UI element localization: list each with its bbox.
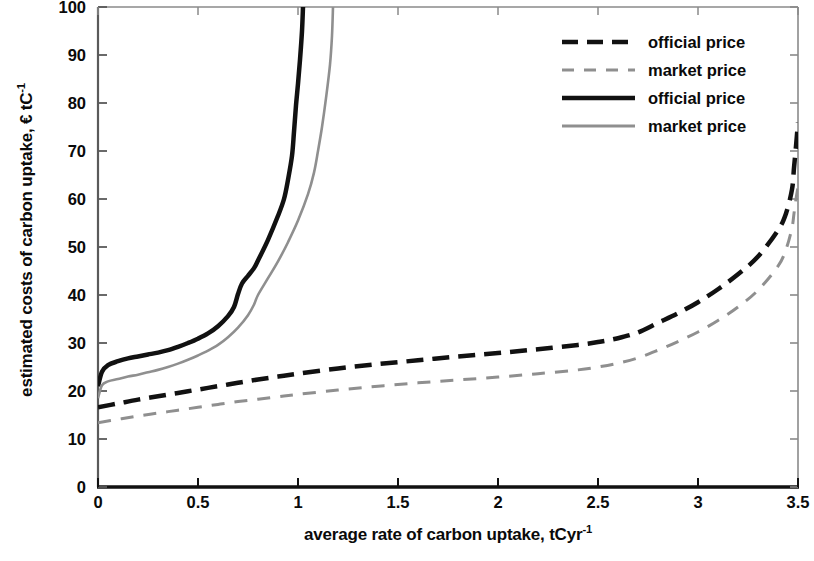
series-line-0: [98, 122, 798, 407]
plot-canvas: [0, 0, 814, 561]
legend-label-1: market price: [648, 61, 746, 80]
legend-label-0: official price: [648, 33, 745, 52]
legend-swatches: [562, 42, 635, 126]
legend-label-2: official price: [648, 89, 745, 108]
series-line-2: [98, 7, 303, 386]
legend-label-3: market price: [648, 117, 746, 136]
chart-figure: estimated costs of carbon uptake, € tC-1…: [0, 0, 814, 561]
